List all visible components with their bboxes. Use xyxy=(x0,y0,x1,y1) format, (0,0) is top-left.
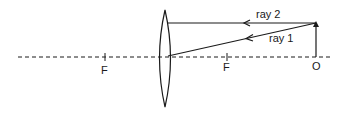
object-label: O xyxy=(312,60,321,72)
focal-point-right-label: F xyxy=(223,61,230,73)
focal-point-left-label: F xyxy=(101,64,108,76)
lens-ray-diagram: ray 2 ray 1 F F O xyxy=(0,0,345,115)
ray-2-label: ray 2 xyxy=(256,8,280,20)
ray-1 xyxy=(168,23,316,56)
converging-lens xyxy=(160,10,171,107)
ray-1-label: ray 1 xyxy=(269,32,293,44)
